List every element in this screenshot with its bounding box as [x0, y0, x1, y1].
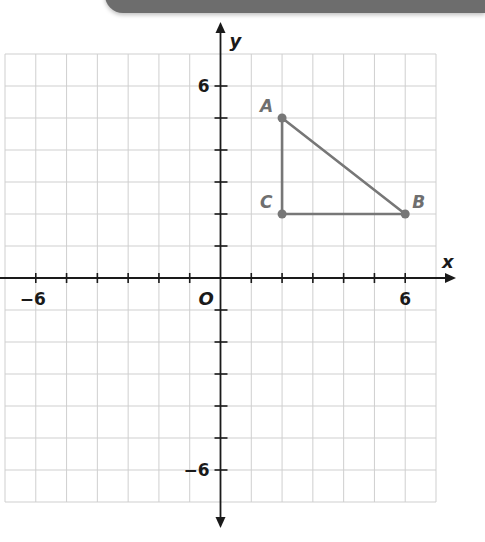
- point-b: [401, 210, 410, 219]
- x-axis-label: x: [441, 251, 455, 272]
- y-axis-arrow-up-icon: [216, 22, 226, 33]
- y-axis-arrow-down-icon: [216, 517, 226, 528]
- origin-label: O: [199, 288, 214, 309]
- y-tick-label: 6: [198, 76, 210, 96]
- x-tick-label: 6: [399, 289, 411, 309]
- y-axis-label: y: [230, 30, 243, 51]
- x-tick-label: −6: [20, 289, 46, 309]
- point-c: [278, 210, 287, 219]
- y-tick-label: −6: [183, 460, 209, 480]
- point-a: [278, 114, 287, 123]
- point-label-c: C: [260, 192, 273, 212]
- x-axis-arrow-icon: [445, 273, 456, 283]
- point-label-a: A: [258, 96, 273, 116]
- point-label-b: B: [412, 192, 425, 212]
